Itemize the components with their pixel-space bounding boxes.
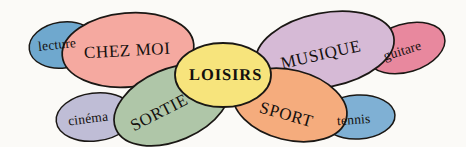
mind-map-diagram: lecture CHEZ MOI LOISIRS MUSIQUE guitare…: [0, 0, 466, 147]
loisirs-bubble-shape[interactable]: [175, 43, 271, 107]
bubble-shapes-layer: [0, 0, 466, 147]
